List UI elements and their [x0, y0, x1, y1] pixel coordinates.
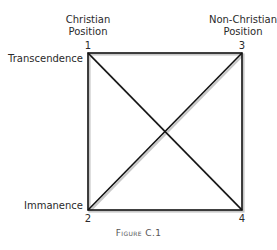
corner-label-3: 3	[236, 40, 248, 52]
non-christian-position-line1: Non-Christian	[203, 14, 277, 26]
corner-label-1: 1	[82, 40, 94, 52]
corner-label-2: 2	[82, 213, 94, 225]
non-christian-position-line2: Position	[203, 26, 277, 38]
christian-position-line2: Position	[58, 26, 118, 38]
figure-caption: Figure C.1	[0, 228, 277, 238]
christian-position-label: Christian Position	[58, 14, 118, 38]
corner-label-4: 4	[236, 213, 248, 225]
transcendence-label: Transcendence	[0, 53, 83, 65]
immanence-label: Immanence	[0, 200, 83, 212]
christian-position-line1: Christian	[58, 14, 118, 26]
non-christian-position-label: Non-Christian Position	[203, 14, 277, 38]
